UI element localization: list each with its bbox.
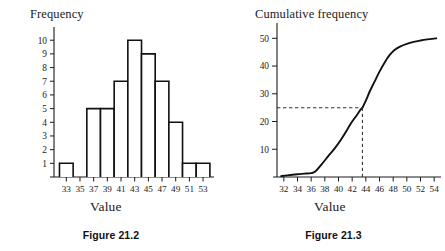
- histogram-bar: [59, 163, 73, 177]
- histogram-bar: [128, 40, 142, 177]
- ogive-x-axis-title: Value: [314, 199, 346, 215]
- ogive-x-tick-label: 50: [402, 184, 412, 194]
- ogive-x-tick-label: 36: [307, 184, 317, 194]
- figure-21-2-panel: Frequency 123456789103335373941434547495…: [0, 0, 222, 251]
- ogive-x-tick-label: 46: [375, 184, 385, 194]
- histogram-x-tick-label: 41: [116, 184, 126, 194]
- ogive-y-tick-label: 50: [260, 34, 270, 44]
- figure-21-3-panel: Cumulative frequency 1020304050323436384…: [222, 0, 445, 251]
- histogram-x-tick-label: 51: [185, 184, 195, 194]
- histogram-x-tick-label: 43: [130, 184, 140, 194]
- ogive-x-tick-label: 40: [334, 184, 344, 194]
- ogive-x-tick-label: 42: [348, 184, 358, 194]
- histogram-bar: [196, 163, 210, 177]
- figure-21-3-caption: Figure 21.3: [222, 229, 445, 241]
- histogram-y-tick-label: 2: [42, 145, 47, 155]
- histogram-bar: [100, 109, 114, 177]
- histogram-x-tick-label: 37: [89, 184, 99, 194]
- ogive-x-tick-label: 52: [416, 184, 426, 194]
- histogram-y-tick-label: 1: [42, 159, 47, 169]
- histogram-x-tick-label: 47: [157, 184, 167, 194]
- histogram-y-tick-label: 10: [38, 36, 48, 46]
- histogram-y-tick-label: 8: [42, 63, 47, 73]
- histogram-y-tick-label: 4: [42, 118, 47, 128]
- histogram-x-axis-title: Value: [90, 199, 122, 215]
- figure-page: Frequency 123456789103335373941434547495…: [0, 0, 445, 251]
- ogive-y-tick-label: 30: [260, 89, 270, 99]
- histogram-y-tick-label: 6: [42, 90, 47, 100]
- figure-21-2-caption: Figure 21.2: [0, 229, 222, 241]
- histogram-y-tick-label: 5: [42, 104, 47, 114]
- histogram-x-tick-label: 49: [171, 184, 181, 194]
- histogram-plot: 123456789103335373941434547495153: [0, 0, 222, 200]
- histogram-x-tick-label: 35: [75, 184, 85, 194]
- histogram-x-tick-label: 39: [103, 184, 113, 194]
- histogram-x-tick-label: 45: [144, 184, 154, 194]
- histogram-x-tick-label: 53: [198, 184, 208, 194]
- histogram-bar: [114, 81, 128, 177]
- histogram-y-tick-label: 7: [42, 77, 47, 87]
- histogram-bar: [155, 81, 169, 177]
- histogram-bar: [169, 122, 183, 177]
- histogram-bar: [183, 163, 197, 177]
- histogram-x-tick-label: 33: [62, 184, 72, 194]
- ogive-y-tick-label: 40: [260, 61, 270, 71]
- histogram-bar: [87, 109, 101, 177]
- ogive-x-tick-label: 48: [389, 184, 399, 194]
- ogive-y-tick-label: 20: [260, 117, 270, 127]
- ogive-x-tick-label: 44: [361, 184, 371, 194]
- ogive-x-tick-label: 32: [279, 184, 289, 194]
- histogram-y-tick-label: 9: [42, 49, 47, 59]
- ogive-x-tick-label: 38: [320, 184, 330, 194]
- ogive-y-tick-label: 10: [260, 145, 270, 155]
- histogram-y-tick-label: 3: [42, 131, 47, 141]
- histogram-bar: [142, 54, 156, 177]
- ogive-x-tick-label: 54: [430, 184, 440, 194]
- ogive-plot: 1020304050323436384042444648505254: [222, 0, 445, 200]
- ogive-x-tick-label: 34: [293, 184, 303, 194]
